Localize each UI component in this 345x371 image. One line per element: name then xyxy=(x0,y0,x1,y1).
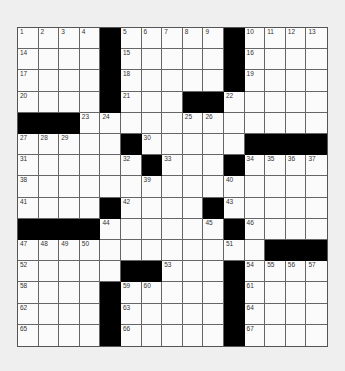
grid-cell[interactable] xyxy=(142,219,163,240)
grid-cell[interactable] xyxy=(142,92,163,113)
grid-cell[interactable]: 35 xyxy=(265,155,286,176)
grid-cell[interactable]: 65 xyxy=(18,325,39,346)
grid-cell[interactable] xyxy=(286,49,307,70)
grid-cell[interactable]: 46 xyxy=(245,219,266,240)
grid-cell[interactable]: 21 xyxy=(121,92,142,113)
grid-cell[interactable] xyxy=(286,325,307,346)
grid-cell[interactable]: 7 xyxy=(162,28,183,49)
grid-cell[interactable]: 27 xyxy=(18,134,39,155)
grid-cell[interactable] xyxy=(224,113,245,134)
grid-cell[interactable]: 43 xyxy=(224,198,245,219)
grid-cell[interactable] xyxy=(265,92,286,113)
grid-cell[interactable]: 22 xyxy=(224,92,245,113)
grid-cell[interactable] xyxy=(286,198,307,219)
grid-cell[interactable] xyxy=(286,92,307,113)
grid-cell[interactable]: 53 xyxy=(162,261,183,282)
grid-cell[interactable]: 32 xyxy=(121,155,142,176)
grid-cell[interactable] xyxy=(162,325,183,346)
grid-cell[interactable] xyxy=(183,49,204,70)
grid-cell[interactable] xyxy=(245,92,266,113)
grid-cell[interactable] xyxy=(162,198,183,219)
grid-cell[interactable] xyxy=(142,70,163,91)
grid-cell[interactable] xyxy=(121,113,142,134)
grid-cell[interactable]: 61 xyxy=(245,282,266,303)
grid-cell[interactable] xyxy=(59,70,80,91)
grid-cell[interactable] xyxy=(183,240,204,261)
grid-cell[interactable] xyxy=(59,282,80,303)
grid-cell[interactable] xyxy=(183,304,204,325)
grid-cell[interactable] xyxy=(183,70,204,91)
grid-cell[interactable]: 9 xyxy=(203,28,224,49)
grid-cell[interactable]: 31 xyxy=(18,155,39,176)
grid-cell[interactable] xyxy=(59,176,80,197)
grid-cell[interactable] xyxy=(100,134,121,155)
grid-cell[interactable] xyxy=(39,261,60,282)
grid-cell[interactable] xyxy=(59,198,80,219)
grid-cell[interactable]: 55 xyxy=(265,261,286,282)
grid-cell[interactable]: 57 xyxy=(306,261,327,282)
grid-cell[interactable] xyxy=(100,176,121,197)
grid-cell[interactable]: 56 xyxy=(286,261,307,282)
grid-cell[interactable]: 23 xyxy=(80,113,101,134)
grid-cell[interactable] xyxy=(183,219,204,240)
grid-cell[interactable] xyxy=(245,240,266,261)
grid-cell[interactable] xyxy=(203,134,224,155)
grid-cell[interactable] xyxy=(121,219,142,240)
grid-cell[interactable] xyxy=(59,92,80,113)
grid-cell[interactable] xyxy=(306,325,327,346)
grid-cell[interactable]: 44 xyxy=(100,219,121,240)
grid-cell[interactable] xyxy=(265,219,286,240)
grid-cell[interactable]: 39 xyxy=(142,176,163,197)
grid-cell[interactable]: 58 xyxy=(18,282,39,303)
grid-cell[interactable] xyxy=(183,325,204,346)
grid-cell[interactable] xyxy=(265,70,286,91)
grid-cell[interactable] xyxy=(203,176,224,197)
grid-cell[interactable] xyxy=(80,155,101,176)
grid-cell[interactable] xyxy=(39,325,60,346)
grid-cell[interactable] xyxy=(59,49,80,70)
grid-cell[interactable] xyxy=(286,304,307,325)
grid-cell[interactable] xyxy=(245,198,266,219)
grid-cell[interactable] xyxy=(286,70,307,91)
grid-cell[interactable] xyxy=(39,92,60,113)
grid-cell[interactable]: 52 xyxy=(18,261,39,282)
grid-cell[interactable] xyxy=(80,92,101,113)
grid-cell[interactable] xyxy=(162,92,183,113)
grid-cell[interactable] xyxy=(59,155,80,176)
grid-cell[interactable] xyxy=(203,304,224,325)
grid-cell[interactable] xyxy=(80,49,101,70)
grid-cell[interactable]: 42 xyxy=(121,198,142,219)
grid-cell[interactable]: 12 xyxy=(286,28,307,49)
grid-cell[interactable] xyxy=(162,240,183,261)
grid-cell[interactable] xyxy=(39,155,60,176)
grid-cell[interactable] xyxy=(100,155,121,176)
grid-cell[interactable]: 59 xyxy=(121,282,142,303)
grid-cell[interactable] xyxy=(142,49,163,70)
grid-cell[interactable] xyxy=(306,176,327,197)
grid-cell[interactable] xyxy=(39,70,60,91)
grid-cell[interactable]: 37 xyxy=(306,155,327,176)
grid-cell[interactable]: 26 xyxy=(203,113,224,134)
grid-cell[interactable]: 40 xyxy=(224,176,245,197)
grid-cell[interactable]: 13 xyxy=(306,28,327,49)
grid-cell[interactable] xyxy=(162,176,183,197)
grid-cell[interactable] xyxy=(183,198,204,219)
grid-cell[interactable] xyxy=(39,282,60,303)
grid-cell[interactable] xyxy=(306,113,327,134)
grid-cell[interactable] xyxy=(80,198,101,219)
grid-cell[interactable]: 47 xyxy=(18,240,39,261)
grid-cell[interactable] xyxy=(121,176,142,197)
grid-cell[interactable] xyxy=(39,49,60,70)
grid-cell[interactable] xyxy=(183,282,204,303)
grid-cell[interactable] xyxy=(162,134,183,155)
grid-cell[interactable] xyxy=(121,240,142,261)
grid-cell[interactable] xyxy=(162,304,183,325)
grid-cell[interactable] xyxy=(142,240,163,261)
grid-cell[interactable] xyxy=(162,219,183,240)
grid-cell[interactable] xyxy=(203,261,224,282)
grid-cell[interactable]: 64 xyxy=(245,304,266,325)
grid-cell[interactable] xyxy=(142,304,163,325)
grid-cell[interactable] xyxy=(162,49,183,70)
grid-cell[interactable] xyxy=(39,304,60,325)
grid-cell[interactable] xyxy=(162,113,183,134)
